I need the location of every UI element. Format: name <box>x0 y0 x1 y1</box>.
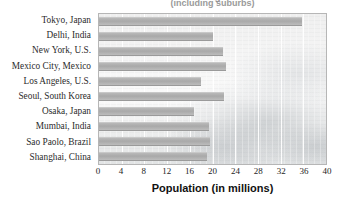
x-axis-tick-label: 12 <box>162 167 171 176</box>
y-axis-category-labels: Tokyo, Japan Delhi, India New York, U.S.… <box>0 13 95 165</box>
bar-row <box>99 89 326 104</box>
y-axis-label: Mumbai, India <box>0 119 95 134</box>
x-axis-tick-labels: 0481216202428323640 <box>98 167 327 179</box>
bar-row <box>99 104 326 119</box>
bar-row <box>99 134 326 149</box>
gridline <box>326 14 327 164</box>
chart-subtitle: (including suburbs) <box>98 0 327 8</box>
bar-row <box>99 74 326 89</box>
bar <box>99 62 226 71</box>
y-axis-label: Seoul, South Korea <box>0 89 95 104</box>
bar-row <box>99 119 326 134</box>
bar <box>99 47 223 56</box>
y-axis-label: Los Angeles, U.S. <box>0 74 95 89</box>
y-axis-label: Sao Paolo, Brazil <box>0 135 95 150</box>
x-axis-tick-label: 32 <box>277 167 286 176</box>
x-axis-tick-label: 28 <box>254 167 263 176</box>
bar <box>99 137 210 146</box>
bar <box>99 152 207 161</box>
x-axis-tick-label: 24 <box>231 167 240 176</box>
x-axis-title: Population (in millions) <box>98 182 327 194</box>
bar <box>99 77 201 86</box>
y-axis-label: Delhi, India <box>0 28 95 43</box>
bar-chart-figure: World's Largest Cities (including suburb… <box>0 0 340 204</box>
x-axis-tick-label: 20 <box>208 167 217 176</box>
bar-row <box>99 59 326 74</box>
x-axis-tick-label: 4 <box>119 167 124 176</box>
bar <box>99 32 213 41</box>
x-axis-tick-label: 36 <box>300 167 309 176</box>
y-axis-label: Shanghai, China <box>0 150 95 165</box>
x-axis-tick-label: 40 <box>323 167 332 176</box>
bar <box>99 92 224 101</box>
x-axis-tick-label: 16 <box>185 167 194 176</box>
x-axis-tick-label: 8 <box>142 167 147 176</box>
y-axis-label: Tokyo, Japan <box>0 13 95 28</box>
x-axis-tick-label: 0 <box>96 167 101 176</box>
bar-row <box>99 14 326 29</box>
bar-series <box>99 14 326 164</box>
y-axis-label: Osaka, Japan <box>0 104 95 119</box>
bar <box>99 122 209 131</box>
bar <box>99 107 194 116</box>
y-axis-label: New York, U.S. <box>0 43 95 58</box>
bar-row <box>99 44 326 59</box>
bar-row <box>99 149 326 164</box>
bar <box>99 17 302 26</box>
y-axis-label: Mexico City, Mexico <box>0 59 95 74</box>
bar-row <box>99 29 326 44</box>
plot-area <box>98 13 327 165</box>
